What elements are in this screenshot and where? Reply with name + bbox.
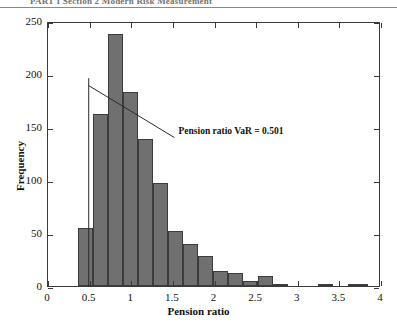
histogram-bar: [168, 231, 183, 286]
y-axis-tick: [48, 76, 53, 77]
x-axis-tick: [256, 281, 257, 286]
y-tick-label: 50: [8, 227, 42, 239]
y-axis-tick: [48, 182, 53, 183]
y-axis-tick: [48, 129, 53, 130]
y-tick-label: 200: [8, 68, 42, 80]
y-axis-tick: [48, 288, 53, 289]
histogram-bar: [78, 228, 93, 286]
histogram-figure: 00.511.522.533.54 050100150200250 Pensio…: [0, 9, 397, 330]
plot-area: [47, 22, 380, 287]
y-axis-title: Frequency: [14, 141, 26, 191]
page-running-header: PART I Section 2 Modern Risk Measurement: [0, 0, 397, 9]
x-tick-label: 0: [27, 291, 67, 303]
x-axis-tick: [339, 23, 340, 28]
x-tick-label: 3.5: [318, 291, 358, 303]
x-axis-tick: [298, 23, 299, 28]
x-axis-tick: [173, 23, 174, 28]
histogram-bar: [123, 92, 138, 286]
histogram-bar: [198, 256, 213, 286]
x-axis-tick: [48, 281, 49, 286]
histogram-bar: [258, 276, 273, 286]
x-axis-tick: [256, 23, 257, 28]
y-axis-tick: [48, 23, 53, 24]
x-axis-tick: [173, 281, 174, 286]
histogram-bar: [183, 244, 198, 286]
histogram-bar: [348, 284, 368, 286]
y-axis-tick: [374, 288, 379, 289]
x-tick-label: 3: [277, 291, 317, 303]
x-axis-tick: [131, 281, 132, 286]
page-header-text: PART I Section 2 Modern Risk Measurement: [30, 0, 212, 6]
histogram-bar: [153, 183, 168, 286]
x-tick-label: 1: [110, 291, 150, 303]
x-tick-label: 0.5: [69, 291, 109, 303]
y-axis-tick: [374, 235, 379, 236]
y-axis-tick: [374, 23, 379, 24]
x-axis-tick: [298, 281, 299, 286]
x-tick-label: 4: [360, 291, 397, 303]
histogram-bar: [108, 34, 123, 286]
x-axis-tick: [90, 281, 91, 286]
y-tick-label: 250: [8, 15, 42, 27]
y-tick-label: 150: [8, 121, 42, 133]
x-tick-label: 2: [194, 291, 234, 303]
x-axis-tick: [339, 281, 340, 286]
histogram-bar: [138, 139, 153, 286]
x-tick-label: 1.5: [152, 291, 192, 303]
x-axis-tick: [90, 23, 91, 28]
y-tick-label: 0: [8, 280, 42, 292]
x-axis-tick: [215, 281, 216, 286]
x-axis-tick: [381, 281, 382, 286]
x-axis-title: Pension ratio: [0, 305, 397, 317]
pension-ratio-var-label: Pension ratio VaR = 0.501: [179, 126, 284, 136]
histogram-bar: [228, 273, 243, 286]
y-axis-tick: [374, 76, 379, 77]
bars-layer: [48, 23, 379, 286]
histogram-bar: [318, 284, 333, 286]
x-axis-tick: [215, 23, 216, 28]
y-axis-tick: [374, 182, 379, 183]
histogram-bar: [273, 284, 288, 286]
histogram-bar: [93, 114, 108, 286]
x-axis-tick: [131, 23, 132, 28]
y-axis-tick: [48, 235, 53, 236]
x-tick-label: 2.5: [235, 291, 275, 303]
y-axis-tick: [374, 129, 379, 130]
header-rule: [0, 7, 397, 8]
x-axis-tick: [381, 23, 382, 28]
